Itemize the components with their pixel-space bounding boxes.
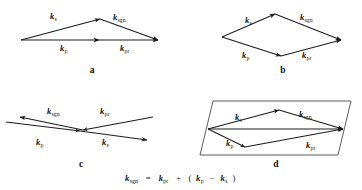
panel-d-label-kpr: kpr bbox=[306, 141, 315, 151]
panel-b-vector-kp bbox=[222, 37, 281, 56]
panel-d-vector-kpr bbox=[245, 129, 343, 147]
phase-matching-equation: ksgn = kpr + ( kp − ks ) bbox=[125, 167, 235, 186]
equation-open-paren: ( bbox=[189, 173, 192, 183]
panel-a: ks ksgn kp kpr a bbox=[21, 12, 158, 75]
panel-d-letter: d bbox=[273, 159, 279, 169]
equation-plus: + bbox=[176, 173, 181, 183]
panel-b: ks ksgn kp kpr b bbox=[222, 13, 341, 75]
panel-a-vector-ksgn bbox=[100, 19, 158, 40]
panel-a-vector-ks bbox=[21, 19, 100, 40]
panel-b-label-ksgn: ksgn bbox=[300, 13, 313, 23]
panel-c-vector-ks-continuation bbox=[80, 131, 147, 140]
panel-b-label-kp: kp bbox=[242, 51, 250, 61]
equation-text: ksgn = kpr + ( kp − ks ) bbox=[125, 167, 235, 186]
figure-root: ks ksgn kp kpr a ks ksgn bbox=[0, 0, 362, 190]
panel-c-vector-kp bbox=[6, 122, 80, 131]
panel-d-label-ks: ks bbox=[235, 113, 243, 123]
panel-c-label-kpr: kpr bbox=[100, 107, 109, 117]
panel-b-letter: b bbox=[280, 65, 285, 75]
panel-d: ks ksgn kp kpr d bbox=[200, 101, 351, 169]
panel-a-label-ksgn: ksgn bbox=[113, 13, 126, 23]
equation-equals: = bbox=[146, 173, 151, 183]
panel-a-label-kp: kp bbox=[60, 44, 68, 54]
panel-c: ksgn kpr kp ks c bbox=[6, 107, 153, 169]
panel-d-label-ksgn: ksgn bbox=[299, 110, 312, 120]
panel-c-vector-kpr bbox=[83, 117, 153, 130]
vector-diagram-svg: ks ksgn kp kpr a ks ksgn bbox=[0, 0, 362, 190]
panel-b-label-kpr: kpr bbox=[302, 51, 311, 61]
panel-a-label-kpr: kpr bbox=[120, 44, 129, 54]
panel-d-box-outline bbox=[200, 101, 351, 155]
panel-c-label-ks: ks bbox=[102, 138, 110, 148]
panel-b-vector-kpr bbox=[281, 40, 341, 56]
equation-close-paren: ) bbox=[232, 173, 235, 183]
panel-b-label-ks: ks bbox=[245, 16, 253, 26]
panel-d-vector-ks bbox=[208, 110, 279, 129]
panel-c-label-kp: kp bbox=[36, 138, 44, 148]
equation-minus: − bbox=[210, 173, 215, 183]
panel-a-label-ks: ks bbox=[50, 12, 58, 22]
panel-c-label-ksgn: ksgn bbox=[47, 107, 60, 117]
panel-c-letter: c bbox=[79, 159, 83, 169]
panel-a-letter: a bbox=[90, 65, 95, 75]
